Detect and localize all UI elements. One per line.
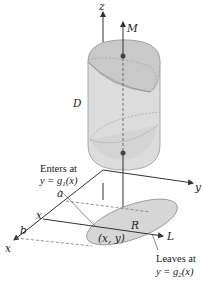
point-bottom bbox=[121, 151, 126, 156]
region-r-label: R bbox=[130, 219, 139, 231]
x-axis-label: x bbox=[5, 242, 11, 254]
point-m-label: M bbox=[126, 22, 138, 34]
z-axis-label: z bbox=[98, 0, 105, 12]
a-label: a bbox=[57, 187, 63, 199]
point-m bbox=[121, 54, 126, 59]
svg-text:Leaves at: Leaves at bbox=[156, 253, 196, 264]
point-xy-label: (x, y) bbox=[98, 232, 125, 244]
line-l-label: L bbox=[166, 230, 174, 242]
y-axis bbox=[103, 170, 193, 183]
y-axis-label: y bbox=[194, 181, 202, 193]
svg-text:y = g2(x): y = g2(x) bbox=[155, 266, 194, 279]
x-tick-label: x bbox=[36, 209, 42, 221]
svg-text:Enters at: Enters at bbox=[40, 163, 77, 174]
leaves-annotation: Leaves at y = g2(x) bbox=[155, 253, 196, 279]
solid-d bbox=[88, 40, 160, 170]
diagram-canvas: z M D y x R (x, y) L a x b Enters at y =… bbox=[0, 0, 203, 281]
b-label: b bbox=[20, 224, 27, 236]
solid-d-label: D bbox=[72, 97, 82, 109]
enters-annotation: Enters at y = g1(x) bbox=[39, 163, 78, 188]
